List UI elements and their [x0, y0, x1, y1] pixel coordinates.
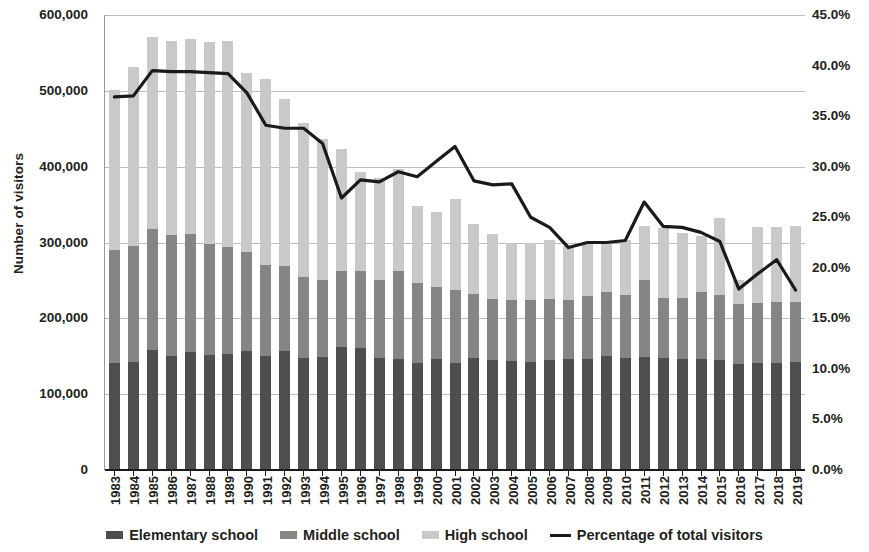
- stacked-bar[interactable]: [109, 90, 120, 470]
- bar-segment-high-school: [714, 218, 725, 295]
- stacked-bar[interactable]: [468, 224, 479, 470]
- stacked-bar[interactable]: [128, 67, 139, 470]
- bar-segment-middle-school: [525, 300, 536, 361]
- bar-segment-middle-school: [601, 292, 612, 356]
- stacked-bar[interactable]: [658, 228, 669, 470]
- stacked-bar[interactable]: [752, 227, 763, 470]
- stacked-bar[interactable]: [639, 226, 650, 470]
- y-tick-label-left: 100,000: [39, 387, 88, 401]
- bar-segment-high-school: [450, 199, 461, 290]
- bar-segment-high-school: [658, 228, 669, 298]
- x-label-slot: 1992: [275, 476, 294, 522]
- legend-label: High school: [445, 527, 528, 543]
- bar-slot: [521, 15, 540, 470]
- bar-segment-high-school: [260, 79, 271, 265]
- stacked-bar[interactable]: [771, 227, 782, 470]
- bar-segment-elementary-school: [185, 352, 196, 470]
- bar-slot: [162, 15, 181, 470]
- stacked-bar[interactable]: [222, 41, 233, 470]
- legend-item[interactable]: High school: [422, 527, 528, 543]
- x-label-slot: 2003: [483, 476, 502, 522]
- bar-segment-elementary-school: [620, 358, 631, 470]
- bar-segment-high-school: [790, 226, 801, 303]
- stacked-bar[interactable]: [298, 123, 309, 470]
- stacked-bar[interactable]: [355, 172, 366, 470]
- stacked-bar[interactable]: [336, 149, 347, 470]
- bar-segment-middle-school: [582, 296, 593, 358]
- x-label-slot: 1995: [332, 476, 351, 522]
- bar-segment-high-school: [544, 240, 555, 298]
- bar-segment-elementary-school: [298, 358, 309, 470]
- legend-item[interactable]: Percentage of total visitors: [550, 527, 763, 543]
- stacked-bar[interactable]: [714, 218, 725, 471]
- stacked-bar[interactable]: [166, 41, 177, 470]
- stacked-bar[interactable]: [431, 212, 442, 470]
- stacked-bar[interactable]: [544, 240, 555, 470]
- bar-segment-elementary-school: [696, 359, 707, 470]
- y-tick-label-left: 500,000: [39, 84, 88, 98]
- stacked-bar[interactable]: [601, 243, 612, 470]
- x-label-slot: 2009: [597, 476, 616, 522]
- bar-segment-middle-school: [714, 295, 725, 360]
- stacked-bar[interactable]: [279, 99, 290, 470]
- bar-segment-middle-school: [204, 244, 215, 355]
- x-label-slot: 2019: [786, 476, 805, 522]
- legend-item[interactable]: Elementary school: [106, 527, 258, 543]
- y-tick-label-right: 45.0%: [812, 8, 850, 22]
- y-tick-label-right: 30.0%: [812, 160, 850, 174]
- stacked-bar[interactable]: [260, 79, 271, 470]
- bar-segment-middle-school: [260, 265, 271, 356]
- stacked-bar[interactable]: [185, 39, 196, 470]
- y-tick-label-right: 35.0%: [812, 109, 850, 123]
- bar-segment-elementary-school: [677, 359, 688, 470]
- bar-segment-elementary-school: [563, 359, 574, 470]
- bar-segment-middle-school: [468, 294, 479, 358]
- bar-segment-middle-school: [752, 303, 763, 363]
- x-label-slot: 2006: [540, 476, 559, 522]
- stacked-bar[interactable]: [733, 280, 744, 470]
- bar-segment-high-school: [601, 243, 612, 292]
- stacked-bar[interactable]: [204, 42, 215, 470]
- bar-segment-high-school: [374, 178, 385, 280]
- bar-slot: [502, 15, 521, 470]
- stacked-bar[interactable]: [620, 240, 631, 471]
- x-label-slot: 2007: [559, 476, 578, 522]
- bar-segment-middle-school: [450, 290, 461, 364]
- x-axis-tick-label: 1998: [392, 476, 407, 505]
- stacked-bar[interactable]: [506, 243, 517, 470]
- x-axis-tick-label: 1988: [203, 476, 218, 505]
- bar-segment-middle-school: [544, 299, 555, 360]
- stacked-bar[interactable]: [241, 73, 252, 470]
- stacked-bar[interactable]: [450, 199, 461, 470]
- x-label-slot: 1996: [351, 476, 370, 522]
- x-axis-tick-label: 2000: [430, 476, 445, 505]
- x-label-slot: 2001: [446, 476, 465, 522]
- x-axis-tick-label: 1996: [354, 476, 369, 505]
- x-axis-tick-label: 2016: [733, 476, 748, 505]
- stacked-bar[interactable]: [696, 236, 707, 470]
- bar-slot: [635, 15, 654, 470]
- stacked-bar[interactable]: [487, 234, 498, 470]
- stacked-bar[interactable]: [147, 37, 158, 470]
- stacked-bar[interactable]: [790, 226, 801, 470]
- bar-segment-middle-school: [412, 283, 423, 363]
- stacked-bar[interactable]: [317, 139, 328, 470]
- bar-segment-elementary-school: [222, 354, 233, 470]
- bar-segment-high-school: [506, 243, 517, 301]
- bar-slot: [143, 15, 162, 470]
- stacked-bar[interactable]: [374, 178, 385, 470]
- stacked-bar[interactable]: [677, 233, 688, 470]
- stacked-bar[interactable]: [582, 243, 593, 470]
- x-label-slot: 2004: [502, 476, 521, 522]
- x-axis-tick-label: 1993: [298, 476, 313, 505]
- bar-segment-high-school: [677, 233, 688, 298]
- bar-segment-high-school: [241, 73, 252, 252]
- legend-item[interactable]: Middle school: [280, 527, 400, 543]
- bar-segment-elementary-school: [355, 348, 366, 470]
- stacked-bar[interactable]: [393, 169, 404, 470]
- x-label-slot: 1983: [105, 476, 124, 522]
- stacked-bar[interactable]: [412, 206, 423, 470]
- stacked-bar[interactable]: [563, 246, 574, 470]
- x-axis-tick-label: 1995: [336, 476, 351, 505]
- stacked-bar[interactable]: [525, 243, 536, 470]
